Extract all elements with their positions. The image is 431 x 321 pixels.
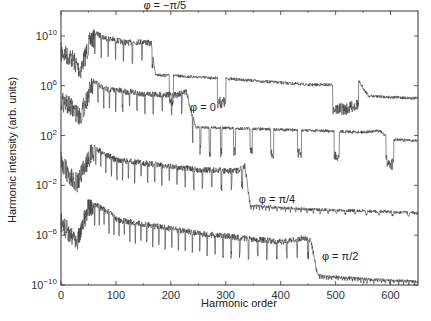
y-axis-title: Harmonic intensity (arb. units) <box>6 77 18 223</box>
x-tick-label: 100 <box>107 289 125 301</box>
y-tick-label: 102 <box>40 128 57 142</box>
series-curves <box>61 30 418 286</box>
x-tick-label: 200 <box>162 289 180 301</box>
series-label-2: φ = π/4 <box>259 193 295 205</box>
series-curve-0 <box>61 30 418 115</box>
y-tick-label: 10−10 <box>31 277 57 291</box>
y-tick-label: 10−6 <box>36 227 58 241</box>
x-axis-title: Harmonic order <box>201 297 277 309</box>
series-label-1: φ = 0 <box>190 101 216 113</box>
y-tick-label: 10−2 <box>36 177 58 191</box>
x-tick-label: 600 <box>381 289 399 301</box>
y-tick-label: 1010 <box>36 28 58 42</box>
series-curve-3 <box>61 200 418 286</box>
harmonic-spectrum-chart: 0100200300400500600 101010610210−210−610… <box>0 0 431 321</box>
series-label-3: φ = π/2 <box>322 250 358 262</box>
x-tick-label: 500 <box>326 289 344 301</box>
y-tick-label: 106 <box>40 78 57 92</box>
series-label-0: φ = −π/5 <box>143 0 186 11</box>
x-tick-label: 0 <box>58 289 64 301</box>
series-curve-2 <box>61 145 418 217</box>
